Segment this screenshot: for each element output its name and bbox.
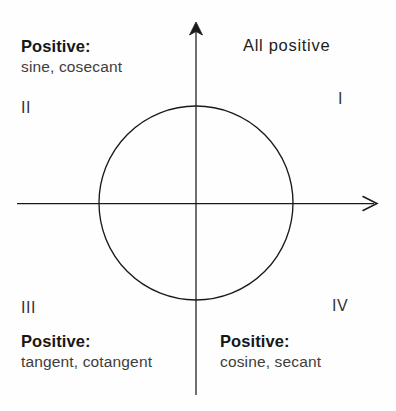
quadrant-3-label: Positive: tangent, cotangent: [21, 331, 152, 373]
quadrant-4-head: Positive:: [220, 331, 321, 352]
quadrant-2-functions: sine, cosecant: [21, 57, 122, 77]
quadrant-2-label: Positive: sine, cosecant: [21, 36, 122, 78]
quadrant-4-numeral: IV: [332, 297, 348, 315]
quadrant-2-head: Positive:: [21, 36, 122, 57]
quadrant-4-functions: cosine, secant: [220, 352, 321, 372]
quadrant-1-numeral: I: [338, 90, 343, 108]
quadrant-3-numeral: III: [21, 299, 36, 317]
quadrant-1-label: All positive: [243, 36, 330, 55]
quadrant-2-numeral: II: [21, 99, 31, 117]
quadrant-4-label: Positive: cosine, secant: [220, 331, 321, 373]
quadrant-3-functions: tangent, cotangent: [21, 352, 152, 372]
figure-canvas: Positive: sine, cosecant All positive Po…: [0, 0, 396, 411]
quadrant-3-head: Positive:: [21, 331, 152, 352]
